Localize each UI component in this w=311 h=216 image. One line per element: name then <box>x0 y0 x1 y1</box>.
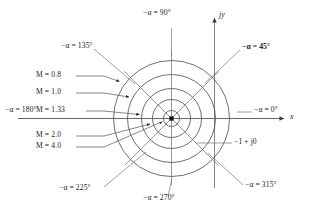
m-label-1-0: M = 1.0 <box>36 88 61 96</box>
critical-point-label: −1 + j0 <box>234 138 257 146</box>
critical-point-marker <box>169 116 173 120</box>
leader-alpha-315 <box>208 153 243 185</box>
alpha-label-315: −α = 315° <box>245 181 277 189</box>
alpha-label-180: −α = 180° <box>5 106 37 114</box>
constant-m-circle-figure: M = 0.8 M = 1.0 M = 1.33 M = 2.0 M = 4.0… <box>0 0 311 216</box>
m-label-1-33: M = 1.33 <box>36 106 65 114</box>
m-label-2-0: M = 2.0 <box>36 131 61 139</box>
alpha-label-270: −α = 270° <box>143 194 175 202</box>
leader-arrow-m-1-33 <box>104 111 140 115</box>
leader-alpha-135 <box>94 49 135 84</box>
m-label-0-8: M = 0.8 <box>36 71 61 79</box>
alpha-spoke-315 <box>172 119 219 166</box>
alpha-label-135: −α = 135° <box>61 42 93 50</box>
alpha-label-0: −α = 0° <box>254 106 278 114</box>
imaginary-axis-label: jy <box>219 11 225 19</box>
leader-arrow-m-0-8 <box>104 76 120 82</box>
alpha-label-90: −α = 90° <box>143 9 171 17</box>
alpha-label-225: −α = 225° <box>59 184 91 192</box>
alpha-spoke-225 <box>125 119 172 166</box>
alpha-spoke-45 <box>172 72 219 119</box>
real-axis-label: x <box>290 113 294 121</box>
alpha-spoke-135 <box>125 72 172 119</box>
leader-alpha-45 <box>205 50 240 83</box>
m-label-4-0: M = 4.0 <box>36 142 61 150</box>
leader-alpha-225 <box>104 152 146 187</box>
leader-arrow-m-1-0 <box>104 93 129 97</box>
alpha-label-45: −α = 45° <box>242 43 270 51</box>
m-leader-lines-group <box>76 76 163 147</box>
